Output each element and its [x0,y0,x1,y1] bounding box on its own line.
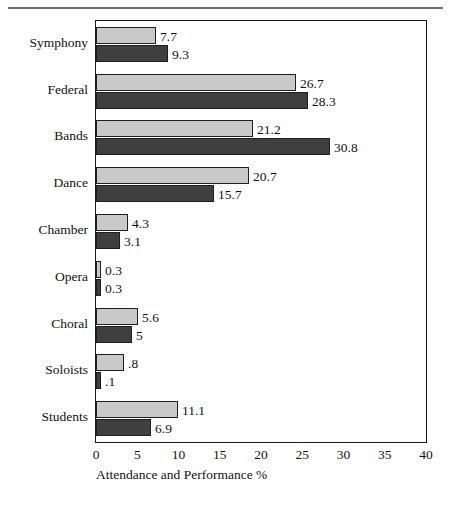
bar-performance-federal [96,92,308,109]
x-tick-0: 0 [93,447,100,462]
x-tick-20: 20 [254,447,268,462]
x-tick-40: 40 [419,447,433,462]
bar-attendance-dance [96,167,249,184]
bar-value-performance-federal: 28.3 [312,95,336,109]
bar-value-performance-students: 6.9 [155,422,172,436]
bar-value-attendance-federal: 26.7 [300,77,324,91]
bar-value-attendance-dance: 20.7 [253,170,277,184]
x-axis-title: Attendance and Performance % [96,467,267,483]
bar-attendance-soloists [96,354,124,371]
bar-value-attendance-chamber: 4.3 [132,217,149,231]
bar-value-performance-soloists: .1 [105,375,115,389]
bar-performance-opera [96,279,101,296]
category-label-symphony: Symphony [0,36,88,50]
bar-performance-students [96,419,151,436]
category-label-opera: Opera [0,270,88,284]
category-label-bands: Bands [0,129,88,143]
bar-value-performance-symphony: 9.3 [172,48,189,62]
bar-value-attendance-symphony: 7.7 [160,30,177,44]
bar-performance-bands [96,138,330,155]
bar-value-attendance-students: 11.1 [182,404,205,418]
bar-value-attendance-bands: 21.2 [257,123,281,137]
bar-performance-symphony [96,45,168,62]
category-label-students: Students [0,410,88,424]
bar-value-performance-chamber: 3.1 [124,235,141,249]
category-axis-labels: SymphonyFederalBandsDanceChamberOperaCho… [0,20,88,443]
x-tick-10: 10 [172,447,186,462]
bar-value-attendance-soloists: .8 [128,357,138,371]
top-horizontal-rule [8,7,443,9]
bar-value-performance-bands: 30.8 [334,141,358,155]
bar-performance-chamber [96,232,120,249]
x-tick-30: 30 [337,447,351,462]
x-tick-15: 15 [213,447,227,462]
bar-performance-dance [96,185,214,202]
category-label-dance: Dance [0,176,88,190]
bar-attendance-opera [96,261,101,278]
x-tick-25: 25 [296,447,310,462]
bar-value-performance-opera: 0.3 [105,282,122,296]
x-tick-5: 5 [134,447,141,462]
bar-performance-soloists [96,372,101,389]
category-label-federal: Federal [0,83,88,97]
category-label-soloists: Soloists [0,363,88,377]
bar-attendance-chamber [96,214,128,231]
chart-page: SymphonyFederalBandsDanceChamberOperaCho… [0,0,451,516]
bar-value-performance-dance: 15.7 [218,188,242,202]
x-tick-35: 35 [378,447,392,462]
category-label-chamber: Chamber [0,223,88,237]
bar-performance-choral [96,326,132,343]
category-label-choral: Choral [0,317,88,331]
bar-attendance-choral [96,308,138,325]
bars-layer: 7.79.326.728.321.230.820.715.74.33.10.30… [96,21,426,442]
bar-value-attendance-opera: 0.3 [105,264,122,278]
bar-attendance-federal [96,74,296,91]
bar-attendance-bands [96,120,253,137]
bar-value-attendance-choral: 5.6 [142,311,159,325]
bar-value-performance-choral: 5 [136,329,143,343]
x-axis-ticks: 0510152025303540 [0,447,451,467]
bar-attendance-symphony [96,27,156,44]
bar-attendance-students [96,401,178,418]
